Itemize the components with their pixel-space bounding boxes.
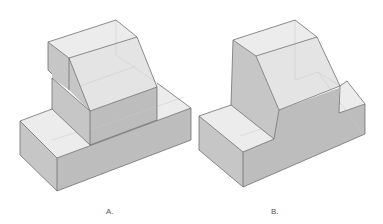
isometric-figure (0, 0, 383, 224)
option-b-label[interactable]: B. (271, 207, 279, 216)
object-a[interactable] (20, 20, 191, 191)
object-b[interactable] (199, 20, 365, 187)
option-a-label[interactable]: A. (106, 207, 114, 216)
